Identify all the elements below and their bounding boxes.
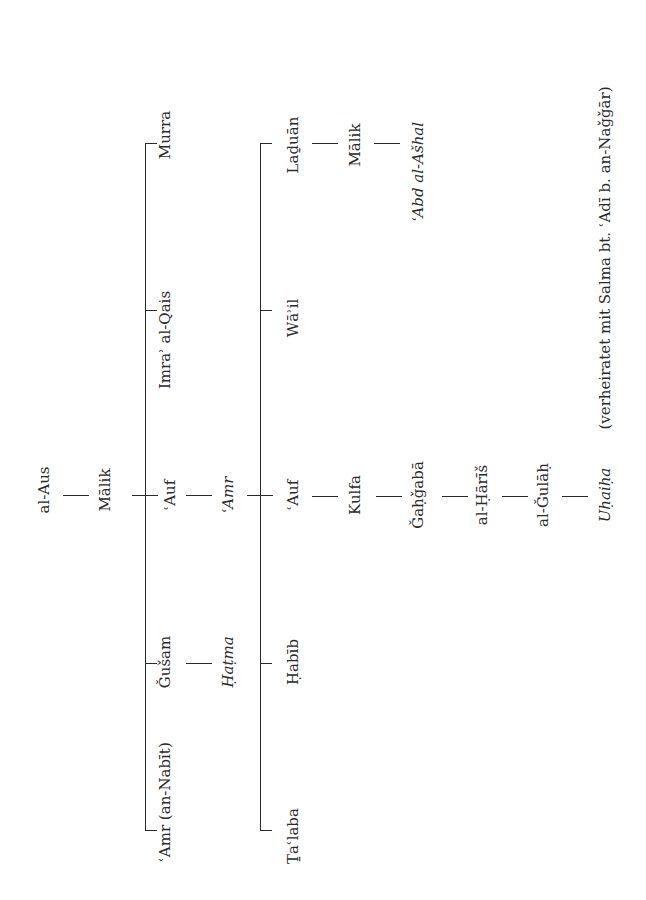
tick-laduan [260,143,272,144]
connector-alaus-malik [63,495,89,496]
node-hatma: Ḥaṭma [221,636,236,687]
node-wail: Wāʾil [286,299,301,338]
connector-laduan-malik [312,143,338,144]
node-uhaiha-note: (verheiratet mit Salma bt. ʿAdī b. an-Na… [598,86,613,429]
node-abd-al-ashal: ʿAbd al-Ašhal [411,122,426,222]
connector-algulah-uhaiha [562,496,588,497]
bracket-2-vertical [260,143,261,831]
node-al-aus: al-Aus [37,467,52,514]
tick-habib [260,663,272,664]
tick-wail [260,310,272,311]
node-gahgaba: Ǧaḥǧabā [411,461,426,529]
node-auf-2: ʿAuf [286,480,301,511]
node-malik: Mālik [98,469,113,512]
genealogy-diagram: al-Aus Mālik Murra Imraʾ al-Qais ʿAuf Ǧu… [0,0,646,900]
connector-gusam-hatma [186,663,212,664]
connector-auf-amr [186,495,212,496]
node-laduan: Laḏuān [286,117,301,174]
node-talaba: Ṯaʿlaba [286,808,301,864]
node-imra-al-qais: Imraʾ al-Qais [158,291,173,389]
node-uhaiha: Uḥaiḥa [598,468,613,523]
connector-alharis-algulah [502,496,528,497]
connector-kulfa-gahgaba [376,496,402,497]
tick-talaba [260,830,272,831]
node-habib: Ḥabīb [286,639,301,685]
node-murra: Murra [158,111,173,159]
bracket-1-vertical [145,143,146,831]
node-auf: ʿAuf [163,480,178,511]
connector-auf-kulfa [312,496,338,497]
node-al-gulah: al-Ǧulāḥ [536,463,551,527]
node-amr-an-nabit: ʿAmr (an-Nabīt) [158,742,173,861]
node-al-haris: al-Ḥārīš [475,465,490,526]
node-amr: ʿAmr [221,477,236,514]
node-malik-2: Mālik [348,124,363,167]
node-gusam: Ǧušam [158,636,173,689]
node-kulfa: Kulfa [348,475,363,515]
connector-gahgaba-alharis [442,496,468,497]
connector-malik-abd-al-ashal [374,143,400,144]
